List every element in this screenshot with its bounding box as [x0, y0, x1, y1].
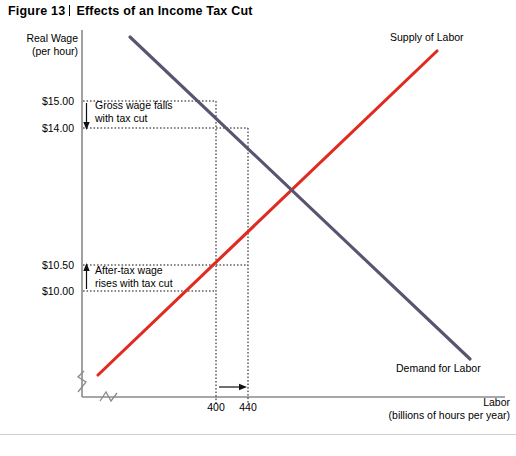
- x-tick-label-400: 400: [199, 401, 233, 413]
- page-divider: [0, 434, 516, 435]
- demand-for-labor-curve: [130, 37, 470, 359]
- gross-wage-annotation: Gross wage falls with tax cut: [95, 99, 173, 124]
- page-tail-text: [0, 438, 516, 456]
- y-tick-label-14-00: $14.00: [12, 122, 74, 134]
- after-tax-wage-up-arrow: [83, 263, 89, 289]
- y-axis-title-line1: Real Wage: [6, 32, 78, 45]
- supply-of-labor-label: Supply of Labor: [390, 31, 464, 43]
- y-tick-label-10-00: $10.00: [12, 285, 74, 297]
- y-axis-title: Real Wage (per hour): [6, 32, 78, 57]
- chart-plot-area: [0, 0, 516, 456]
- after-tax-wage-annotation-line2: rises with tax cut: [95, 277, 173, 290]
- y-tick-label-10-50: $10.50: [12, 259, 74, 271]
- x-tick-label-440: 440: [231, 401, 265, 413]
- demand-for-labor-label: Demand for Labor: [396, 362, 481, 374]
- x-axis-title-line2: (billions of hours per year): [389, 409, 510, 422]
- x-axis-title: Labor (billions of hours per year): [389, 396, 510, 422]
- after-tax-wage-annotation: After-tax wage rises with tax cut: [95, 264, 173, 289]
- quantity-right-arrow: [219, 384, 247, 390]
- figure-container: Figure 13Effects of an Income Tax Cut: [0, 0, 516, 456]
- x-axis-break-mark: [100, 392, 117, 401]
- gross-wage-annotation-line2: with tax cut: [95, 112, 173, 125]
- after-tax-wage-annotation-line1: After-tax wage: [95, 264, 173, 277]
- gross-wage-down-arrow: [83, 103, 89, 130]
- y-axis-title-line2: (per hour): [6, 45, 78, 58]
- x-axis-title-line1: Labor: [389, 396, 510, 409]
- gross-wage-annotation-line1: Gross wage falls: [95, 99, 173, 112]
- y-tick-label-15-00: $15.00: [12, 95, 74, 107]
